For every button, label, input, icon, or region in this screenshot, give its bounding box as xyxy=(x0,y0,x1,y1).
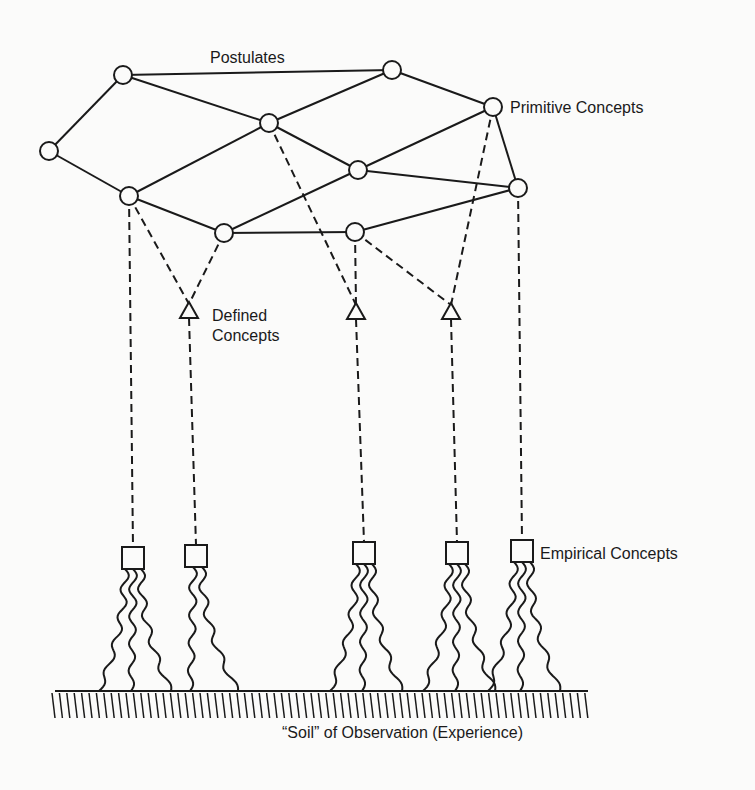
correspondence-rule xyxy=(269,123,356,305)
primitive-concept-circle-icon xyxy=(346,223,364,241)
defined-concepts-label-line2: Concepts xyxy=(212,327,280,344)
soil-hatch xyxy=(163,693,166,718)
correspondence-rule xyxy=(129,196,133,547)
soil-hatch xyxy=(104,693,107,718)
soil-hatch xyxy=(133,693,136,718)
soil-hatch xyxy=(489,693,492,718)
soil-hatch xyxy=(503,693,506,718)
soil-hatch xyxy=(59,693,62,718)
soil-hatch xyxy=(89,693,92,718)
correspondence-rule xyxy=(355,232,356,305)
postulate-edge xyxy=(493,107,518,188)
soil-hatch xyxy=(548,693,551,718)
primitive-concept-circle-icon xyxy=(484,98,502,116)
soil-hatch xyxy=(577,693,580,718)
postulate-edge xyxy=(269,70,392,123)
primitive-concept-circle-icon xyxy=(383,61,401,79)
defined-concepts-label-line1: Defined xyxy=(212,307,267,324)
soil-hatch xyxy=(237,693,240,718)
soil-hatch xyxy=(207,693,210,718)
observation-root xyxy=(188,567,197,691)
soil-hatch xyxy=(296,693,299,718)
primitive-concepts-label: Primitive Concepts xyxy=(510,99,643,116)
empirical-concept-square-icon xyxy=(353,542,375,564)
primitive-concept-circle-icon xyxy=(114,66,132,84)
soil-hatch xyxy=(193,693,196,718)
defined-concept-triangle-icon xyxy=(347,303,365,319)
correspondence-rule xyxy=(189,318,196,545)
soil-hatch xyxy=(385,693,388,718)
soil-hatch xyxy=(311,693,314,718)
soil-hatch xyxy=(274,693,277,718)
primitive-concept-circle-icon xyxy=(40,142,58,160)
observation-root xyxy=(199,567,238,691)
correspondence-rule xyxy=(451,319,457,542)
empirical-concept-square-icon xyxy=(122,547,144,569)
correspondence-rule xyxy=(356,319,364,542)
soil-hatch xyxy=(341,693,344,718)
soil-of-observation xyxy=(52,691,588,718)
defined-concept-triangle-icon xyxy=(180,302,198,318)
soil-hatch xyxy=(555,693,558,718)
primitive-concept-circle-icon xyxy=(260,114,278,132)
correspondence-rule xyxy=(129,196,189,304)
soil-hatch xyxy=(511,693,514,718)
soil-hatch xyxy=(304,693,307,718)
soil-hatch xyxy=(355,693,358,718)
soil-hatch xyxy=(156,693,159,718)
empirical-concept-square-icon xyxy=(446,542,468,564)
soil-hatch xyxy=(82,693,85,718)
soil-hatch xyxy=(52,693,55,718)
soil-hatch xyxy=(496,693,499,718)
soil-hatch xyxy=(126,693,129,718)
soil-hatch xyxy=(170,693,173,718)
soil-hatch xyxy=(67,693,70,718)
postulate-edge xyxy=(358,107,493,170)
postulate-edge xyxy=(129,196,224,233)
observation-root xyxy=(99,569,129,691)
soil-hatch xyxy=(526,693,529,718)
primitive-concept-circle-icon xyxy=(349,161,367,179)
soil-hatch xyxy=(267,693,270,718)
soil-hatch xyxy=(348,693,351,718)
primitive-concept-circle-icon xyxy=(215,224,233,242)
soil-hatch xyxy=(400,693,403,718)
soil-hatch xyxy=(244,693,247,718)
soil-hatch xyxy=(281,693,284,718)
postulate-edge xyxy=(49,151,129,196)
empirical-concept-square-icon xyxy=(185,545,207,567)
soil-hatch xyxy=(444,693,447,718)
rules-of-correspondence xyxy=(129,107,522,547)
soil-hatch xyxy=(148,693,151,718)
empirical-concepts-label: Empirical Concepts xyxy=(540,545,678,562)
soil-hatch xyxy=(459,693,462,718)
soil-hatch xyxy=(363,693,366,718)
observation-root xyxy=(129,569,137,691)
soil-hatch xyxy=(518,693,521,718)
primitive-concept-circle-icon xyxy=(509,179,527,197)
empirical-concept-square-icon xyxy=(511,540,533,562)
soil-hatch xyxy=(422,693,425,718)
soil-hatch xyxy=(563,693,566,718)
soil-hatch xyxy=(222,693,225,718)
soil-hatch xyxy=(230,693,233,718)
soil-hatch xyxy=(370,693,373,718)
correspondence-rule xyxy=(189,233,224,304)
observation-root xyxy=(462,564,495,691)
soil-hatch xyxy=(533,693,536,718)
observation-roots xyxy=(99,562,560,691)
soil-hatch xyxy=(407,693,410,718)
correspondence-rule xyxy=(451,107,493,305)
empirical-concept-nodes xyxy=(122,540,533,569)
soil-hatch xyxy=(452,693,455,718)
soil-hatch xyxy=(540,693,543,718)
observation-root xyxy=(330,564,360,691)
soil-hatch xyxy=(318,693,321,718)
soil-hatch xyxy=(96,693,99,718)
postulate-edge xyxy=(224,232,355,233)
observation-root xyxy=(360,564,368,691)
soil-hatch xyxy=(119,693,122,718)
soil-hatch xyxy=(570,693,573,718)
theory-network-diagram: Postulates Primitive Concepts Defined Co… xyxy=(0,0,755,790)
soil-hatch xyxy=(415,693,418,718)
